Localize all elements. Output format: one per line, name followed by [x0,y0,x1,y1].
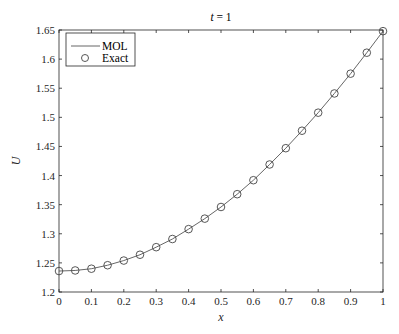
y-tick-label: 1.3 [41,228,55,240]
x-axis-label: x [217,310,224,324]
plot-axes [59,30,383,292]
chart-title: t = 1 [210,11,231,23]
x-tick-label: 0.7 [279,295,293,307]
x-tick-label: 0 [56,295,62,307]
series-mol-line [59,31,383,271]
y-tick-label: 1.55 [36,82,56,94]
y-tick-label: 1.5 [41,111,55,123]
y-tick-label: 1.6 [41,53,55,65]
x-tick-label: 0.4 [182,295,196,307]
legend: MOL Exact [66,33,135,66]
y-tick-label: 1.2 [41,286,55,298]
line-chart: t = 1 00.10.20.30.40.50.60.70.80.91 1.21… [0,0,399,334]
x-tick-label: 0.5 [214,295,228,307]
mol-line [59,31,383,271]
y-tick-label: 1.25 [36,257,56,269]
y-tick-label: 1.35 [36,199,56,211]
x-tick-label: 1 [380,295,386,307]
x-tick-label: 0.8 [311,295,325,307]
x-tick-label: 0.1 [85,295,99,307]
y-tick-label: 1.45 [36,140,56,152]
legend-label-mol: MOL [102,40,128,52]
x-tick-label: 0.6 [247,295,261,307]
y-tick-label: 1.4 [41,170,55,182]
y-tick-label: 1.65 [36,24,56,36]
x-tick-label: 0.2 [117,295,131,307]
x-tick-label: 0.9 [344,295,358,307]
y-axis-label: U [9,155,23,165]
x-tick-label: 0.3 [149,295,163,307]
legend-label-exact: Exact [102,52,129,64]
plot-frame [59,30,383,292]
